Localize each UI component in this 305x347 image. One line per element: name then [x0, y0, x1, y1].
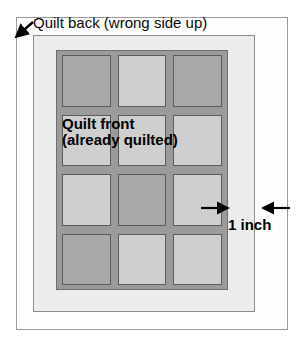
- quilt-block: [62, 55, 111, 107]
- quilt-block: [62, 174, 111, 226]
- measurement-label: 1 inch: [228, 216, 271, 233]
- quilt-block-grid: [56, 50, 228, 290]
- quilt-block: [173, 234, 222, 286]
- diagram-canvas: Quilt back (wrong side up) Quilt front (…: [0, 0, 305, 347]
- quilt-block: [62, 234, 111, 286]
- quilt-back-label: Quilt back (wrong side up): [33, 14, 207, 31]
- quilt-block: [118, 234, 167, 286]
- arrow-left-icon: [255, 203, 291, 215]
- quilt-block: [173, 115, 222, 167]
- quilt-block: [118, 174, 167, 226]
- quilt-block: [173, 174, 222, 226]
- quilt-block: [173, 55, 222, 107]
- quilt-front-label: Quilt front (already quilted): [62, 116, 178, 148]
- arrow-right-icon: [200, 203, 234, 215]
- quilt-front-label-line1: Quilt front: [62, 116, 178, 132]
- quilt-block: [118, 55, 167, 107]
- quilt-front-label-line2: (already quilted): [62, 132, 178, 148]
